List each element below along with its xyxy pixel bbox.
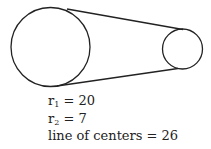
- given-values: r1 = 20 r2 = 7 line of centers = 26: [48, 94, 178, 143]
- small-circle: [163, 29, 203, 69]
- line-of-centers-label: line of centers = 26: [48, 129, 178, 143]
- r2-value: = 7: [59, 111, 86, 126]
- radius-2-label: r2 = 7: [48, 112, 178, 130]
- r1-value: = 20: [59, 93, 95, 108]
- radius-1-label: r1 = 20: [48, 94, 178, 112]
- large-circle: [11, 8, 90, 87]
